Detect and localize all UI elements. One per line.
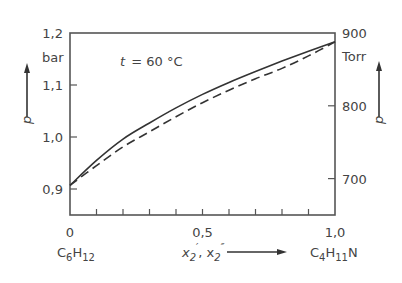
left-y-unit: bar [42,50,64,65]
right-component-label: C4H11N [310,245,358,263]
left-y-axis-label: p [19,63,34,125]
boiling-curve-solid [70,42,335,186]
plot-frame [70,33,335,215]
x-tick-label: 0,5 [192,225,213,240]
temperature-annotation: t = 60 °C [120,54,183,69]
right-y-tick-label: 700 [342,172,367,187]
x-tick-label: 0 [66,225,74,240]
x-axis-label: x2′, x2″ [181,242,225,263]
left-y-tick-label: 0,9 [42,182,63,197]
x-axis-arrow [227,249,287,255]
svg-text:p: p [19,116,34,125]
left-y-tick-label: 1,1 [42,78,63,93]
svg-text:p: p [371,116,386,125]
left-y-tick-label: 1,0 [42,130,63,145]
arrow-up-icon [376,61,382,71]
right-y-tick-label: 800 [342,99,367,114]
left-y-tick-label: 1,2 [42,26,63,41]
right-y-axis-label: p [371,61,386,125]
left-component-label: C6H12 [57,245,95,263]
x-axis-ticks: 00,51,0 [66,209,345,240]
arrow-right-icon [277,249,287,255]
right-y-tick-label: 900 [342,26,367,41]
x-tick-label: 1,0 [325,225,346,240]
dew-curve-dashed [70,42,335,186]
vapor-pressure-chart: 00,51,0 0,91,01,11,2 700800900 t = 60 °C… [0,0,402,283]
arrow-up-icon [24,63,30,73]
right-y-unit: Torr [341,49,367,64]
